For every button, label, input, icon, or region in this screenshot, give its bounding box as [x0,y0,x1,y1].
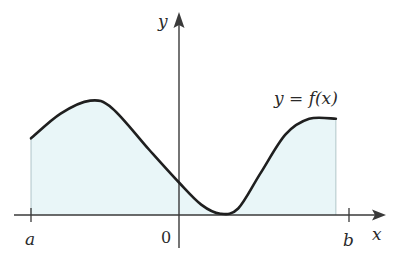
tick-label-a: a [25,229,35,249]
figure: y x a 0 b y = f(x) [0,0,394,254]
x-axis-label: x [372,224,382,244]
origin-label: 0 [161,228,171,247]
tick-label-b: b [343,230,354,250]
y-axis-label: y [157,11,168,31]
curve-label: y = f(x) [273,88,338,108]
shaded-area [31,100,336,215]
